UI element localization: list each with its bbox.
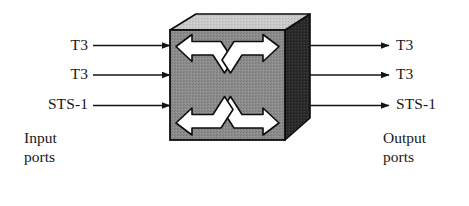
input-port-label-2: T3	[10, 66, 88, 82]
box-side-face	[285, 14, 310, 140]
cross-connect-box	[170, 14, 310, 140]
output-port-label-3: STS-1	[396, 96, 436, 112]
input-ports-caption-line-2: ports	[24, 147, 57, 166]
box-top-face	[170, 14, 310, 30]
output-ports-caption: Output ports	[383, 128, 426, 166]
output-port-label-2: T3	[396, 66, 413, 82]
input-ports-caption-line-1: Input	[24, 128, 57, 147]
input-port-label-1: T3	[10, 37, 88, 53]
input-ports-caption: Input ports	[24, 128, 57, 166]
input-port-label-3: STS-1	[10, 96, 88, 112]
output-port-label-1: T3	[396, 37, 413, 53]
output-ports-caption-line-2: ports	[383, 147, 426, 166]
output-connector-arrows	[298, 46, 389, 106]
output-ports-caption-line-1: Output	[383, 128, 426, 147]
input-connector-arrows	[93, 46, 170, 106]
cross-connect-diagram: T3 T3 STS-1 T3 T3 STS-1 Input ports Outp…	[0, 0, 469, 206]
